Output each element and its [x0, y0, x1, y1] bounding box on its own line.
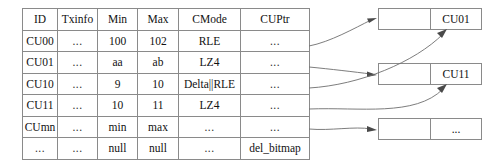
- arrow-cu00-to-box0: [309, 18, 377, 46]
- cell-cmode: Delta||RLE: [179, 73, 241, 95]
- table-row: CUmn ... min max ... ...: [23, 116, 310, 138]
- cell-id: CU10: [23, 73, 58, 95]
- cell-max: ab: [138, 52, 179, 74]
- diagram-canvas: ID Txinfo Min Max CMode CUPtr CU00 ... 1…: [0, 0, 487, 160]
- cell-max: 102: [138, 30, 179, 52]
- column-header-cmode: CMode: [179, 9, 241, 31]
- cell-max: max: [138, 116, 179, 138]
- column-header-max: Max: [138, 9, 179, 31]
- cu-metadata-table: ID Txinfo Min Max CMode CUPtr CU00 ... 1…: [22, 8, 310, 160]
- cell-cmode: ...: [179, 138, 241, 160]
- cell-min: min: [98, 116, 138, 138]
- cell-txinfo: ...: [58, 52, 98, 74]
- cu-box-left-cell: [379, 9, 431, 29]
- cell-cuptr: ...: [241, 30, 310, 52]
- cell-txinfo: ...: [58, 30, 98, 52]
- cu-box-right-cell: ...: [431, 119, 481, 139]
- cell-cmode: LZ4: [179, 95, 241, 117]
- cell-id: CU00: [23, 30, 58, 52]
- cell-id: CU01: [23, 52, 58, 74]
- cu-box-ellipsis: ...: [378, 118, 482, 140]
- column-header-min: Min: [98, 9, 138, 31]
- cell-txinfo: ...: [58, 116, 98, 138]
- table-row: CU01 ... aa ab LZ4 ...: [23, 52, 310, 74]
- cell-min: null: [98, 138, 138, 160]
- cell-cmode: LZ4: [179, 52, 241, 74]
- cell-id: CU11: [23, 95, 58, 117]
- cell-cuptr: ...: [241, 95, 310, 117]
- cu-box-right-cell: CU01: [431, 9, 481, 29]
- cell-cuptr: ...: [241, 116, 310, 138]
- arrow-cu11-to-box1-right: [309, 84, 447, 109]
- cell-min: 100: [98, 30, 138, 52]
- cell-cuptr: ...: [241, 73, 310, 95]
- cell-max: 10: [138, 73, 179, 95]
- cell-cuptr: del_bitmap: [241, 138, 310, 160]
- table-row: ... ... null null ... del_bitmap: [23, 138, 310, 160]
- cell-max: null: [138, 138, 179, 160]
- cell-txinfo: ...: [58, 138, 98, 160]
- column-header-txinfo: Txinfo: [58, 9, 98, 31]
- cu-box-cu11: CU11: [378, 63, 482, 85]
- cell-min: aa: [98, 52, 138, 74]
- cell-cmode: RLE: [179, 30, 241, 52]
- cu-box-left-cell: [379, 119, 431, 139]
- table-row: CU10 ... 9 10 Delta||RLE ...: [23, 73, 310, 95]
- cell-max: 11: [138, 95, 179, 117]
- table-header-row: ID Txinfo Min Max CMode CUPtr: [23, 9, 310, 31]
- cu-box-left-cell: [379, 64, 431, 84]
- cell-min: 9: [98, 73, 138, 95]
- table-row: CU00 ... 100 102 RLE ...: [23, 30, 310, 52]
- cell-id: CUmn: [23, 116, 58, 138]
- column-header-id: ID: [23, 9, 58, 31]
- column-header-cuptr: CUPtr: [241, 9, 310, 31]
- cu-box-cu01: CU01: [378, 8, 482, 30]
- cell-id: ...: [23, 138, 58, 160]
- cell-min: 10: [98, 95, 138, 117]
- cell-txinfo: ...: [58, 95, 98, 117]
- arrow-cu01-to-box1: [309, 67, 377, 77]
- cell-cmode: ...: [179, 116, 241, 138]
- cu-box-right-cell: CU11: [431, 64, 481, 84]
- arrow-cumn-to-box2: [309, 126, 377, 132]
- cell-cuptr: ...: [241, 52, 310, 74]
- table-row: CU11 ... 10 11 LZ4 ...: [23, 95, 310, 117]
- cell-txinfo: ...: [58, 73, 98, 95]
